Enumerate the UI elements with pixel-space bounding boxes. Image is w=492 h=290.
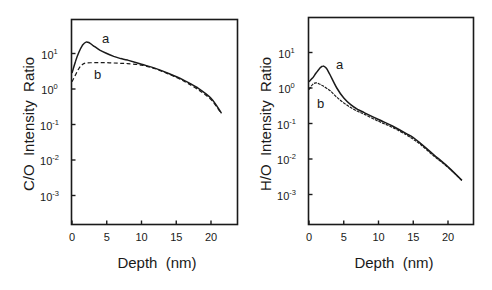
left-ticks: 0510152010110010-110-210-3 bbox=[40, 47, 217, 243]
left-curve-label-a: a bbox=[102, 31, 110, 46]
x-tick-label: 15 bbox=[170, 231, 182, 243]
right-panel: 0510152010110010-110-210-3 a b Depth (nm… bbox=[257, 18, 474, 272]
y-tick-label: 10-1 bbox=[277, 117, 296, 131]
y-tick-label: 10-2 bbox=[277, 152, 296, 166]
y-tick-label: 10-1 bbox=[40, 118, 59, 132]
right-curves bbox=[309, 66, 462, 181]
right-curve-label-b: b bbox=[317, 96, 324, 111]
left-plot-frame bbox=[72, 20, 238, 225]
x-tick-label: 0 bbox=[306, 231, 312, 243]
right-y-axis-title: H/O Intensity Ratio bbox=[257, 57, 274, 191]
x-tick-label: 10 bbox=[135, 231, 147, 243]
y-tick-label: 100 bbox=[278, 81, 294, 95]
x-tick-label: 20 bbox=[205, 231, 217, 243]
x-tick-label: 5 bbox=[104, 231, 110, 243]
right-plot-frame bbox=[309, 18, 474, 225]
figure: 0510152010110010-110-210-3 a b Depth (nm… bbox=[0, 0, 492, 290]
y-tick-label: 101 bbox=[278, 46, 294, 60]
x-tick-label: 5 bbox=[341, 231, 347, 243]
y-tick-label: 101 bbox=[41, 47, 57, 61]
right-ticks: 0510152010110010-110-210-3 bbox=[277, 46, 454, 243]
left-curve-label-b: b bbox=[94, 67, 101, 82]
y-tick-label: 100 bbox=[41, 82, 57, 96]
x-tick-label: 10 bbox=[372, 231, 384, 243]
right-curve-label-a: a bbox=[336, 57, 344, 72]
x-tick-label: 0 bbox=[69, 231, 75, 243]
y-tick-label: 10-3 bbox=[40, 189, 59, 203]
y-tick-label: 10-3 bbox=[277, 188, 296, 202]
y-tick-label: 10-2 bbox=[40, 153, 59, 167]
left-panel: 0510152010110010-110-210-3 a b Depth (nm… bbox=[20, 20, 238, 272]
left-y-axis-title: C/O Intensity Ratio bbox=[20, 57, 37, 191]
x-tick-label: 15 bbox=[407, 231, 419, 243]
left-x-axis-title: Depth (nm) bbox=[117, 254, 196, 271]
right-x-axis-title: Depth (nm) bbox=[354, 254, 433, 271]
curve-a bbox=[309, 66, 462, 181]
curve-b bbox=[309, 83, 462, 181]
x-tick-label: 20 bbox=[442, 231, 454, 243]
